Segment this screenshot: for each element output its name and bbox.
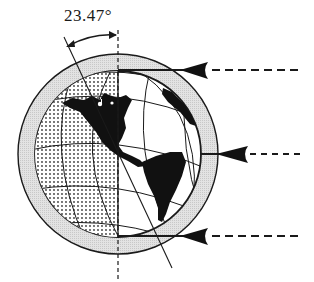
earth-tilt-diagram: 23.47° (0, 0, 314, 282)
angle-indicator (66, 31, 117, 47)
tilt-angle-label: 23.47° (64, 6, 112, 26)
